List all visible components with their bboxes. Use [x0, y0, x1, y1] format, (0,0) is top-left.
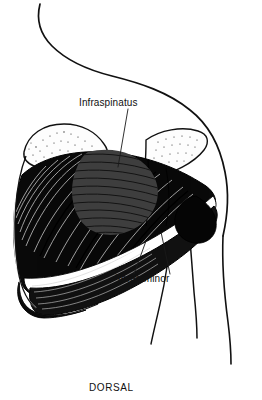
infraspinatus-label: Infraspinatus [79, 97, 138, 108]
anatomy-figure: Infraspinatus Teres minor DORSAL [0, 0, 262, 400]
dorsal-caption: DORSAL [89, 382, 134, 393]
teres-minor-label: Teres minor [116, 273, 170, 284]
anatomy-illustration-svg: Infraspinatus Teres minor DORSAL [0, 0, 262, 400]
